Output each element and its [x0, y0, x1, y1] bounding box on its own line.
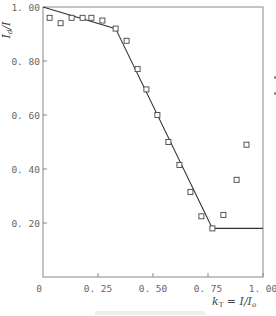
data-markers	[47, 15, 249, 231]
plot-frame	[43, 7, 263, 277]
square-marker-icon	[221, 212, 226, 217]
edge-marks	[274, 76, 276, 79]
x-axis-ticks: 0. 250. 500. 751. 00	[84, 273, 276, 294]
square-marker-icon	[166, 140, 171, 145]
correlation-line	[43, 7, 263, 228]
origin-label: 0	[36, 283, 42, 294]
square-marker-icon	[58, 21, 63, 26]
edge-marks	[274, 92, 276, 95]
square-marker-icon	[124, 38, 129, 43]
square-marker-icon	[234, 177, 239, 182]
square-marker-icon	[155, 113, 160, 118]
square-marker-icon	[188, 189, 193, 194]
square-marker-icon	[89, 15, 94, 20]
y-tick-label: 0. 20	[11, 218, 40, 229]
caption-fragment	[95, 311, 205, 315]
square-marker-icon	[144, 87, 149, 92]
square-marker-icon	[210, 226, 215, 231]
y-tick-label: 0. 40	[11, 164, 40, 175]
square-marker-icon	[177, 162, 182, 167]
square-marker-icon	[100, 18, 105, 23]
square-marker-icon	[69, 15, 74, 20]
square-marker-icon	[113, 26, 118, 31]
y-tick-label: 0. 80	[11, 56, 40, 67]
x-tick-label: 1. 00	[249, 283, 276, 294]
square-marker-icon	[199, 214, 204, 219]
y-axis-ticks: 0. 200. 400. 600. 801. 00	[11, 2, 47, 229]
square-marker-icon	[244, 142, 249, 147]
chart: 0. 250. 500. 751. 00 0. 200. 400. 600. 8…	[0, 0, 276, 316]
y-tick-label: 1. 00	[11, 2, 40, 13]
x-tick-label: 0. 75	[194, 283, 223, 294]
x-tick-label: 0. 25	[84, 283, 113, 294]
square-marker-icon	[135, 67, 140, 72]
square-marker-icon	[47, 15, 52, 20]
x-axis-label: kT = I/Io	[212, 295, 256, 309]
y-axis-label: Id/I	[0, 21, 14, 40]
y-tick-label: 0. 60	[11, 110, 40, 121]
x-tick-label: 0. 50	[139, 283, 168, 294]
square-marker-icon	[80, 15, 85, 20]
